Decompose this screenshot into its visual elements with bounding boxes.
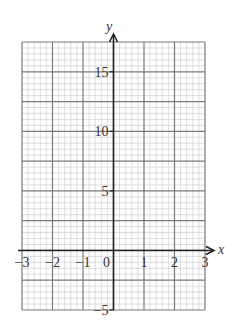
x-axis-label: x xyxy=(217,242,225,257)
y-tick-label: 10 xyxy=(95,124,109,139)
x-tick-label: 3 xyxy=(202,255,209,270)
x-tick-label: −2 xyxy=(45,255,60,270)
graph-paper-chart: −3−2−10123−551015 x y xyxy=(0,0,232,324)
y-tick-label: 5 xyxy=(102,184,109,199)
x-tick-label: −3 xyxy=(15,255,30,270)
x-tick-label: 1 xyxy=(141,255,148,270)
y-axis-label: y xyxy=(104,19,113,34)
x-tick-label: 0 xyxy=(103,255,110,270)
y-tick-label: 15 xyxy=(95,65,109,80)
x-tick-label: −1 xyxy=(76,255,91,270)
x-tick-label: 2 xyxy=(171,255,178,270)
y-tick-label: −5 xyxy=(94,303,109,318)
